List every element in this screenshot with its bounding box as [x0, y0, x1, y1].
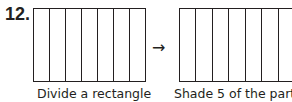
rectangle-part — [66, 9, 82, 81]
rectangle-part — [262, 9, 278, 81]
rectangle-part — [180, 9, 196, 81]
right-arrow-icon: → — [152, 40, 165, 56]
rectangle-part — [82, 9, 98, 81]
left-caption: Divide a rectangle — [37, 86, 151, 101]
rectangle-part — [130, 9, 145, 81]
rectangle-part — [114, 9, 130, 81]
right-caption: Shade 5 of the parts — [174, 86, 292, 101]
rectangle-part — [246, 9, 262, 81]
rectangle-part — [213, 9, 229, 81]
shading-rectangle — [179, 8, 292, 82]
rectangle-part — [50, 9, 66, 81]
rectangle-part — [34, 9, 50, 81]
rectangle-part — [229, 9, 245, 81]
problem-number: 12. — [5, 4, 30, 25]
rectangle-part — [279, 9, 292, 81]
rectangle-part — [98, 9, 114, 81]
rectangle-part — [196, 9, 212, 81]
divided-rectangle — [33, 8, 146, 82]
